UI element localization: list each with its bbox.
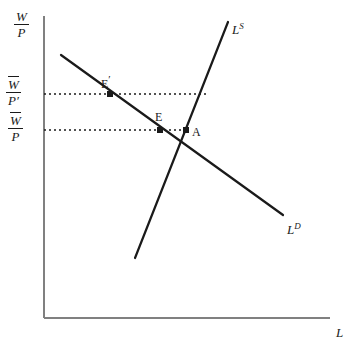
point-e-marker bbox=[157, 127, 163, 133]
tick-label-lower-real-wage: W P bbox=[8, 114, 23, 143]
labor-supply-label: LS bbox=[232, 22, 244, 36]
figure-canvas: W P W P′ W P LS LD L E′ E A bbox=[0, 0, 350, 350]
y-axis-label: W P bbox=[14, 10, 29, 39]
diagram-svg bbox=[0, 0, 350, 350]
tick-upper-denominator: P′ bbox=[6, 93, 21, 107]
tick-lower-numerator: W bbox=[8, 114, 23, 129]
tick-label-upper-real-wage: W P′ bbox=[6, 78, 21, 107]
labor-demand-curve bbox=[61, 55, 283, 215]
tick-lower-denominator: P bbox=[8, 129, 23, 143]
labor-demand-label-superscript: D bbox=[294, 221, 301, 231]
labor-supply-curve bbox=[135, 22, 228, 258]
point-e-prime-marker bbox=[107, 91, 113, 97]
point-e-label: E bbox=[155, 111, 162, 123]
labor-supply-label-superscript: S bbox=[239, 21, 244, 31]
y-axis-label-numerator: W bbox=[14, 10, 29, 25]
point-a-marker bbox=[183, 127, 189, 133]
point-a-label: A bbox=[192, 126, 201, 138]
y-axis-label-denominator: P bbox=[14, 25, 29, 39]
labor-demand-label: LD bbox=[287, 222, 301, 236]
point-e-prime-label: E′ bbox=[101, 74, 111, 90]
x-axis-label: L bbox=[336, 326, 343, 339]
tick-upper-numerator: W bbox=[6, 78, 21, 93]
point-e-prime-mark: ′ bbox=[108, 73, 110, 85]
